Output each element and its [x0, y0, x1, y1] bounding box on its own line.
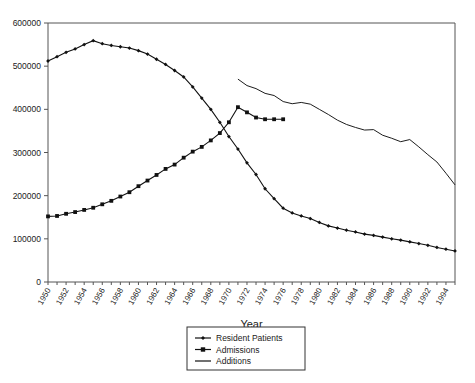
data-point [91, 206, 95, 210]
data-point [345, 228, 349, 232]
x-tick-label: 1964 [163, 286, 180, 306]
x-tick-label: 1956 [90, 286, 107, 306]
data-point [64, 212, 68, 216]
data-point [146, 179, 150, 183]
legend-label: Additions [216, 356, 251, 366]
data-point [109, 44, 113, 48]
legend-marker-square [201, 347, 205, 351]
y-tick-label: 500000 [13, 61, 42, 71]
data-point [290, 211, 294, 215]
data-point [173, 163, 177, 167]
x-tick-label: 1994 [434, 286, 451, 306]
data-point [399, 238, 403, 242]
data-point [281, 117, 285, 121]
x-tick-label: 1962 [145, 286, 162, 306]
data-point [417, 242, 421, 246]
data-point [137, 49, 141, 53]
data-point [64, 50, 68, 54]
data-point [100, 202, 104, 206]
data-point [73, 210, 77, 214]
data-point [118, 195, 122, 199]
data-point [46, 214, 50, 218]
data-point [426, 243, 430, 247]
y-tick-label: 600000 [13, 18, 42, 28]
data-point [137, 184, 141, 188]
x-tick-label: 1968 [199, 286, 216, 306]
x-tick-label: 1950 [36, 286, 53, 306]
series-1 [46, 39, 457, 253]
data-point [200, 145, 204, 149]
data-point [218, 131, 222, 135]
data-point [191, 150, 195, 154]
data-point [182, 156, 186, 160]
legend: Resident PatientsAdmissionsAdditions [187, 327, 305, 370]
data-point [372, 233, 376, 237]
data-point [326, 224, 330, 228]
data-point [236, 105, 240, 109]
x-tick-label: 1966 [181, 286, 198, 306]
data-point [55, 55, 59, 59]
series-path [48, 41, 455, 251]
series-3 [238, 79, 455, 185]
data-point [363, 232, 367, 236]
data-point [453, 249, 457, 253]
series-path [48, 107, 283, 216]
data-point [73, 47, 77, 51]
x-tick-label: 1952 [54, 286, 71, 306]
y-tick-label: 400000 [13, 104, 42, 114]
data-point [82, 43, 86, 47]
data-point [46, 59, 50, 63]
data-point [100, 42, 104, 46]
data-point [128, 190, 132, 194]
y-tick-label: 300000 [13, 148, 42, 158]
data-point [91, 39, 95, 43]
data-point [381, 235, 385, 239]
x-tick-label: 1972 [235, 286, 252, 306]
y-tick-label: 0 [36, 277, 41, 287]
data-point [109, 199, 113, 203]
x-tick-label: 1978 [289, 286, 306, 306]
data-point [435, 246, 439, 250]
data-point [164, 167, 168, 171]
x-tick-label: 1954 [72, 286, 89, 306]
x-tick-label: 1976 [271, 286, 288, 306]
y-tick-label: 100000 [13, 234, 42, 244]
y-axis: 0100000200000300000400000500000600000 [13, 18, 48, 287]
x-tick-label: 1970 [217, 286, 234, 306]
data-point [209, 139, 213, 143]
data-point [354, 230, 358, 234]
legend-label: Resident Patients [216, 333, 283, 343]
data-point [299, 214, 303, 218]
data-point [317, 221, 321, 225]
data-point [444, 247, 448, 251]
y-tick-label: 200000 [13, 191, 42, 201]
data-point [263, 117, 267, 121]
x-tick-label: 1960 [126, 286, 143, 306]
series-layer [46, 39, 457, 253]
data-point [336, 226, 340, 230]
data-point [254, 116, 258, 120]
chart-container: 0100000200000300000400000500000600000195… [0, 0, 475, 383]
data-point [272, 117, 276, 121]
data-point [308, 217, 312, 221]
x-tick-label: 1986 [362, 286, 379, 306]
x-tick-label: 1992 [416, 286, 433, 306]
x-tick-label: 1984 [344, 286, 361, 306]
x-tick-label: 1980 [307, 286, 324, 306]
x-tick-label: 1982 [325, 286, 342, 306]
plot-frame [48, 23, 455, 282]
data-point [55, 214, 59, 218]
data-point [390, 237, 394, 241]
data-point [408, 240, 412, 244]
series-path [238, 79, 455, 185]
data-point [155, 173, 159, 177]
legend-label: Admissions [216, 345, 259, 355]
line-chart: 0100000200000300000400000500000600000195… [0, 0, 475, 383]
x-tick-label: 1958 [108, 286, 125, 306]
x-axis: 1950195219541956195819601962196419661968… [36, 282, 455, 306]
series-2 [46, 105, 285, 218]
data-point [128, 46, 132, 50]
data-point [245, 110, 249, 114]
x-tick-label: 1974 [253, 286, 270, 306]
data-point [227, 120, 231, 124]
